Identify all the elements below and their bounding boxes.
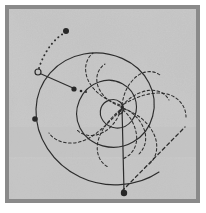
figure-root: Logarithmic spiral construction diagram … (0, 0, 206, 213)
figure-frame (5, 5, 200, 203)
plate-tone-overlay (9, 9, 196, 199)
spiral-diagram-svg (9, 9, 196, 199)
